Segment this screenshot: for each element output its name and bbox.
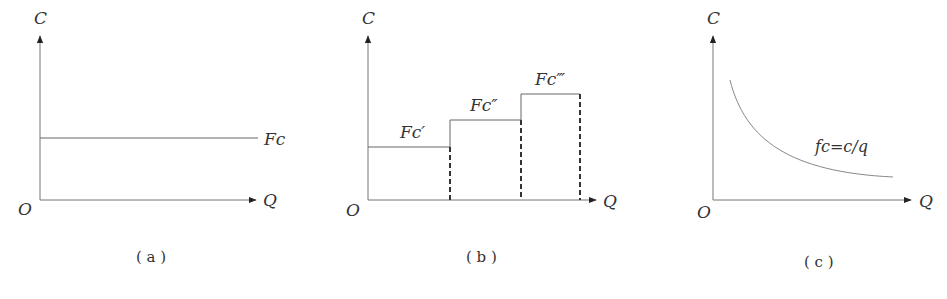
y-axis-label: C xyxy=(362,8,375,28)
step-label-2: Fc″ xyxy=(469,95,498,115)
panel-caption: ( c ) xyxy=(804,253,834,271)
y-axis-label: C xyxy=(707,8,720,28)
step-label-3: Fc‴ xyxy=(534,69,565,89)
fixed-cost-diagram: C Q O Fc ( a ) C Q O Fc′ Fc″ Fc‴ ( b ) C… xyxy=(0,0,947,299)
origin-label: O xyxy=(346,200,360,220)
panel-caption: ( a ) xyxy=(136,248,166,266)
origin-label: O xyxy=(697,202,711,222)
panel-c: C Q O fc=c/q ( c ) xyxy=(697,8,933,271)
x-axis-label: Q xyxy=(263,190,277,210)
panel-b: C Q O Fc′ Fc″ Fc‴ ( b ) xyxy=(346,8,617,266)
curve-label: fc=c/q xyxy=(814,137,868,156)
x-axis-label: Q xyxy=(603,191,617,211)
y-axis-label: C xyxy=(34,8,47,28)
step-label-1: Fc′ xyxy=(399,122,425,142)
panel-a: C Q O Fc ( a ) xyxy=(18,8,286,266)
curve-label: Fc xyxy=(263,129,286,149)
average-fixed-cost-curve xyxy=(730,80,893,177)
x-axis-label: Q xyxy=(919,191,933,211)
panel-caption: ( b ) xyxy=(466,248,497,266)
diagram-canvas: C Q O Fc ( a ) C Q O Fc′ Fc″ Fc‴ ( b ) C… xyxy=(0,0,947,299)
origin-label: O xyxy=(18,199,32,219)
